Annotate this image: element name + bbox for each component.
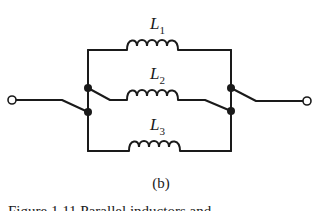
- left-terminal-icon: [8, 96, 16, 104]
- branch-l2: [88, 88, 231, 111]
- inductor-l2-icon: [127, 90, 178, 100]
- label-l2: L2: [149, 64, 165, 86]
- inductor-l1-icon: [127, 40, 178, 50]
- right-terminal-icon: [303, 97, 311, 105]
- junction-dot-icon: [84, 108, 92, 116]
- junction-dot-icon: [227, 84, 235, 92]
- circuit-diagram: L1 L2 L3 (b) Figure 1.11 Parallel induct…: [0, 0, 318, 211]
- branch-l3: [88, 141, 231, 151]
- junction-dot-icon: [227, 107, 235, 115]
- branch-l1: [88, 40, 231, 50]
- junction-dot-icon: [84, 84, 92, 92]
- left-lead: [16, 100, 88, 112]
- inductor-l3-icon: [129, 141, 180, 151]
- right-lead: [231, 88, 303, 101]
- label-l3: L3: [149, 115, 165, 137]
- label-l1: L1: [149, 14, 165, 36]
- subfigure-label: (b): [152, 175, 170, 192]
- figure-caption: Figure 1.11 Parallel inductors and: [8, 203, 212, 211]
